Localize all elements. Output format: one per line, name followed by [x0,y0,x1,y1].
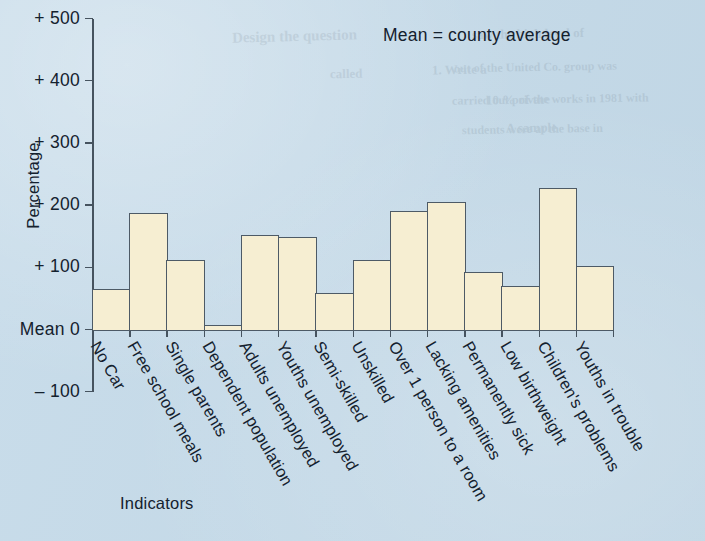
bar-series: No CarFree school mealsSingle parentsDep… [0,0,705,541]
bar [204,325,243,331]
bar [576,266,615,331]
bar [501,286,540,331]
x-axis-tick-mark [92,330,93,337]
bar [315,293,354,330]
bar [390,211,429,330]
x-axis-category-label: No Car [87,338,130,393]
bar [353,260,392,331]
x-axis-title: Indicators [120,494,194,513]
bar [464,272,503,331]
bar [278,237,317,330]
bar [166,260,205,331]
bar [92,289,131,331]
bar [241,235,280,331]
x-axis-tick-mark [613,330,614,337]
bar [539,188,578,330]
bar-chart: Mean = county average Percentage – 100Me… [0,0,705,541]
bar [129,213,168,331]
bar [427,202,466,331]
